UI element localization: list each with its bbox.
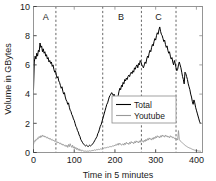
volume-over-time-line-chart: 0100200300400 0246810 ABC Time in 5 minu… [0, 0, 216, 181]
x-tick-label: 300 [148, 155, 163, 165]
y-tick-label: 10 [20, 2, 30, 12]
y-tick-label: 6 [25, 60, 30, 70]
y-tick-label: 4 [25, 89, 30, 99]
region-label-a: A [43, 12, 49, 22]
x-tick-label: 200 [107, 155, 122, 165]
x-axis-title: Time in 5 minutes [83, 170, 154, 180]
region-label-c: C [155, 12, 162, 22]
legend-label-total: Total [134, 100, 152, 110]
legend-label-youtube: Youtube [134, 111, 165, 121]
x-tick-label: 100 [67, 155, 82, 165]
chart-figure: 0100200300400 0246810 ABC Time in 5 minu… [0, 0, 216, 181]
region-label-b: B [118, 12, 124, 22]
y-axis-title: Volume in GBytes [3, 43, 13, 115]
y-tick-label: 8 [25, 31, 30, 41]
y-tick-label: 0 [25, 148, 30, 158]
y-tick-label: 2 [25, 119, 30, 129]
x-tick-label: 0 [31, 155, 36, 165]
x-tick-label: 400 [189, 155, 204, 165]
chart-legend: TotalYoutube [112, 96, 176, 123]
